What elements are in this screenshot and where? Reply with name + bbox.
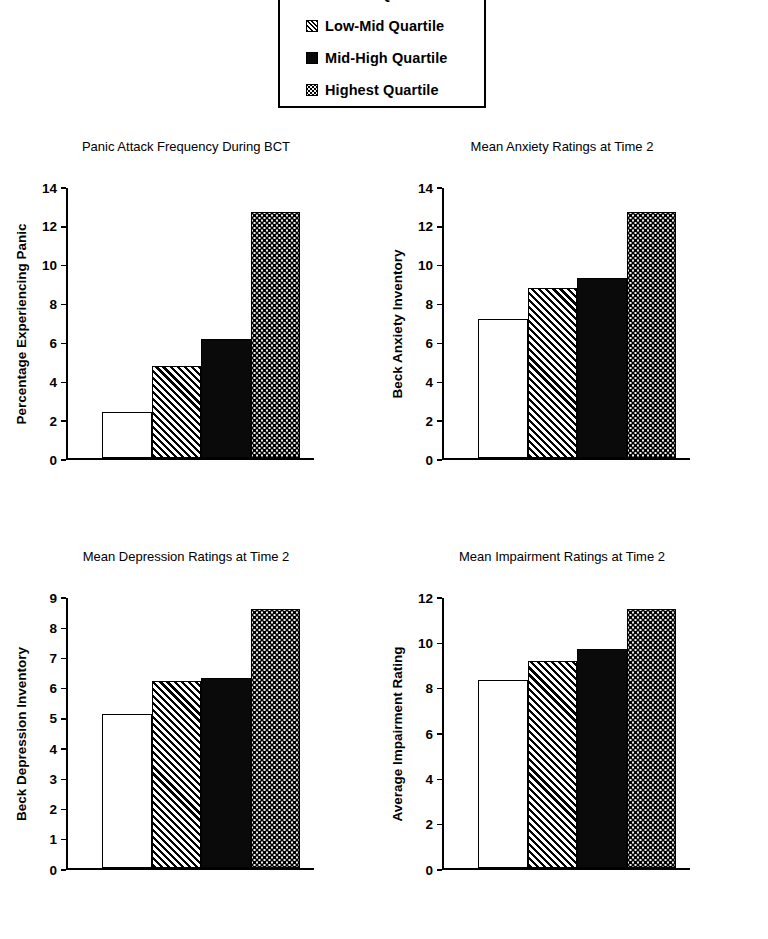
legend-item-label: Mid-High Quartile xyxy=(325,51,448,66)
chart-panel-mean-depression-ratings: Mean Depression Ratings at Time 2Beck De… xyxy=(6,550,366,939)
y-axis-label: Beck Anxiety Inventory xyxy=(391,250,405,399)
y-axis-tick-label: 8 xyxy=(425,682,433,696)
y-axis-tick-label: 2 xyxy=(49,803,57,817)
y-axis-tick-label: 4 xyxy=(425,773,433,787)
bar-hatch xyxy=(528,661,578,868)
y-axis-tick-label: 6 xyxy=(49,337,57,351)
bar-hatch xyxy=(152,681,202,869)
y-axis-tick-label: 14 xyxy=(42,181,57,195)
plot-area: Percentage Experiencing Panic02468101214 xyxy=(66,188,314,460)
bar-white xyxy=(102,714,152,869)
y-axis-tick-label: 4 xyxy=(425,376,433,390)
plot-area: Beck Anxiety Inventory02468101214 xyxy=(442,188,690,460)
bar-solid xyxy=(577,278,627,459)
y-axis-tick-label: 3 xyxy=(49,773,57,787)
y-axis-tick xyxy=(61,459,66,460)
y-axis-tick-label: 6 xyxy=(49,682,57,696)
bar-solid xyxy=(577,649,627,869)
bar-hatch xyxy=(528,288,578,458)
y-axis-tick-label: 5 xyxy=(49,712,57,726)
y-axis-tick-label: 12 xyxy=(42,220,57,234)
x-axis-line xyxy=(66,458,314,460)
legend-item-label: Lowest Quartile xyxy=(325,0,435,1)
y-axis-tick-label: 8 xyxy=(49,621,57,635)
quartile-legend: Lowest QuartileLow-Mid QuartileMid-High … xyxy=(278,0,486,108)
bar-white xyxy=(478,680,528,868)
bar-series xyxy=(442,188,690,458)
y-axis-tick xyxy=(61,869,66,870)
y-axis-tick-label: 4 xyxy=(49,376,57,390)
legend-item-low-mid-quartile: Low-Mid Quartile xyxy=(306,16,444,36)
plot-area: Beck Depression Inventory0123456789 xyxy=(66,598,314,870)
bar-dots xyxy=(627,212,677,458)
y-axis-tick-label: 0 xyxy=(49,453,57,467)
y-axis-tick-label: 12 xyxy=(418,220,433,234)
chart-title: Mean Anxiety Ratings at Time 2 xyxy=(382,140,742,153)
y-axis-tick-label: 1 xyxy=(49,833,57,847)
y-axis-tick-label: 0 xyxy=(425,453,433,467)
x-axis-line xyxy=(442,458,690,460)
y-axis-tick-label: 7 xyxy=(49,652,57,666)
y-axis-tick-label: 8 xyxy=(425,298,433,312)
chart-title: Panic Attack Frequency During BCT xyxy=(6,140,366,153)
legend-item-highest-quartile: Highest Quartile xyxy=(306,80,439,100)
legend-item-mid-high-quartile: Mid-High Quartile xyxy=(306,48,448,68)
y-axis-tick-label: 9 xyxy=(49,591,57,605)
bar-white xyxy=(478,319,528,458)
bar-series xyxy=(442,598,690,868)
y-axis-tick xyxy=(437,459,442,460)
y-axis-tick-label: 6 xyxy=(425,337,433,351)
y-axis-label: Beck Depression Inventory xyxy=(15,647,29,821)
y-axis-tick xyxy=(437,869,442,870)
plot-area: Average Impairment Rating024681012 xyxy=(442,598,690,870)
chart-title: Mean Impairment Ratings at Time 2 xyxy=(382,550,742,563)
bar-dots xyxy=(251,609,301,869)
legend-swatch-hatch-icon xyxy=(306,20,318,32)
y-axis-label: Percentage Experiencing Panic xyxy=(15,223,29,424)
bar-series xyxy=(66,188,314,458)
y-axis-tick-label: 0 xyxy=(49,863,57,877)
y-axis-tick-label: 2 xyxy=(49,414,57,428)
bar-hatch xyxy=(152,366,202,459)
bar-solid xyxy=(201,678,251,869)
bar-series xyxy=(66,598,314,868)
bar-dots xyxy=(251,212,301,458)
bar-white xyxy=(102,412,152,458)
y-axis-tick-label: 6 xyxy=(425,727,433,741)
y-axis-tick-label: 2 xyxy=(425,414,433,428)
y-axis-tick-label: 12 xyxy=(418,591,433,605)
legend-item-label: Low-Mid Quartile xyxy=(325,19,444,34)
y-axis-tick-label: 10 xyxy=(418,637,433,651)
y-axis-tick-label: 10 xyxy=(418,259,433,273)
chart-panel-mean-impairment-ratings: Mean Impairment Ratings at Time 2Average… xyxy=(382,550,742,939)
chart-title: Mean Depression Ratings at Time 2 xyxy=(6,550,366,563)
y-axis-label: Average Impairment Rating xyxy=(391,646,405,821)
y-axis-tick-label: 4 xyxy=(49,742,57,756)
legend-swatch-dots-icon xyxy=(306,84,318,96)
y-axis-tick-label: 8 xyxy=(49,298,57,312)
x-axis-line xyxy=(66,868,314,870)
legend-swatch-solid-icon xyxy=(306,52,318,64)
chart-panel-mean-anxiety-ratings: Mean Anxiety Ratings at Time 2Beck Anxie… xyxy=(382,140,742,530)
y-axis-tick-label: 2 xyxy=(425,818,433,832)
bar-solid xyxy=(201,339,251,459)
legend-item-label: Highest Quartile xyxy=(325,83,439,98)
y-axis-tick-label: 14 xyxy=(418,181,433,195)
x-axis-line xyxy=(442,868,690,870)
chart-panel-panic-attack-frequency: Panic Attack Frequency During BCTPercent… xyxy=(6,140,366,530)
legend-item-lowest-quartile: Lowest Quartile xyxy=(306,0,435,4)
bar-dots xyxy=(627,609,677,868)
y-axis-tick-label: 10 xyxy=(42,259,57,273)
y-axis-tick-label: 0 xyxy=(425,863,433,877)
